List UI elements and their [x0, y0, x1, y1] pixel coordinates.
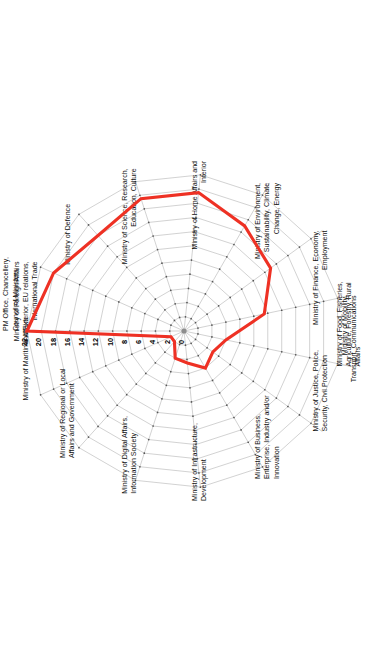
grid-vertex-dot	[148, 222, 150, 224]
axis-label-line: Ministry of Regional or Local	[59, 368, 67, 458]
axis-label-line: Ministry of Foreign Affairs	[13, 261, 21, 341]
grid-vertex-dot	[267, 348, 269, 350]
grid-vertex-dot	[219, 392, 221, 394]
grid-vertex-dot	[98, 330, 100, 332]
grid-vertex-dot	[88, 224, 90, 226]
axis-label-13: Ministry of Regional or LocalAffairs and…	[59, 368, 76, 458]
grid-vertex-dot	[166, 276, 168, 278]
grid-vertex-dot	[88, 436, 90, 438]
grid-vertex-dot	[287, 255, 289, 257]
grid-vertex-dot	[116, 404, 118, 406]
grid-vertex-dot	[264, 389, 266, 391]
grid-vertex-dot	[309, 357, 311, 359]
axis-label-line: Education, Culture	[130, 168, 138, 226]
grid-vertex-dot	[188, 373, 190, 375]
grid-vertex-dot	[226, 404, 228, 406]
grid-vertex-dot	[92, 371, 94, 373]
grid-vertex-dot	[197, 305, 199, 307]
grid-vertex-dot	[157, 249, 159, 251]
grid-vertex-dot	[189, 273, 191, 275]
grid-vertex-dot	[323, 300, 325, 302]
radar-chart-svg: 0246810121416182022PM Office, Chanceller…	[0, 0, 365, 670]
grid-vertex-dot	[174, 320, 176, 322]
axis-label-line: Ministry of Digital Affairs,	[121, 416, 129, 494]
grid-vertex-dot	[40, 266, 42, 268]
grid-vertex-dot	[92, 290, 94, 292]
grid-vertex-dot	[170, 324, 172, 326]
axis-label-line: Ministry of Justice, Police,	[312, 350, 320, 432]
grid-vertex-dot	[166, 384, 168, 386]
grid-vertex-dot	[170, 289, 172, 291]
axis-label-line: Ministry of Food, Fisheries,	[336, 281, 344, 366]
grid-vertex-dot	[157, 412, 159, 414]
grid-vertex-dot	[211, 336, 213, 338]
grid-vertex-dot	[118, 301, 120, 303]
radial-tick-label: 10	[106, 338, 115, 346]
grid-vertex-dot	[239, 318, 241, 320]
grid-vertex-dot	[229, 297, 231, 299]
grid-vertex-dot	[186, 302, 188, 304]
grid-vertex-dot	[190, 318, 192, 320]
grid-vertex-dot	[195, 339, 197, 341]
axis-label-line: PM Office, Chancellery,	[2, 257, 10, 331]
grid-vertex-dot	[97, 426, 99, 428]
grid-vertex-dot	[252, 380, 254, 382]
axis-label-10: Ministry of Business,Enterprise, Industr…	[254, 395, 280, 479]
radial-tick-label: 14	[77, 337, 86, 346]
grid-vertex-dot	[118, 359, 120, 361]
grid-vertex-dot	[155, 298, 157, 300]
grid-vertex-dot	[107, 415, 109, 417]
axis-label-line: Security, Civil Protection	[321, 355, 329, 431]
chart-center-hub	[181, 328, 186, 333]
grid-vertex-dot	[225, 321, 227, 323]
axis-label-line: Ministry of Infrastructure,	[191, 423, 199, 501]
grid-vertex-dot	[161, 398, 163, 400]
axis-label-6: Ministry of Finance, Economy,Employment	[312, 230, 329, 325]
grid-vertex-dot	[247, 219, 249, 221]
radial-tick-label: 8	[120, 340, 129, 344]
grid-vertex-dot	[53, 388, 55, 390]
grid-vertex-dot	[107, 245, 109, 247]
grid-vertex-dot	[143, 452, 145, 454]
axis-label-line: Ministry of Home Affairs and	[191, 161, 199, 250]
axis-label-line: Affairs	[354, 346, 362, 366]
axis-label-line: Change, Energy	[273, 182, 281, 234]
radial-tick-label: 6	[134, 340, 143, 344]
grid-vertex-dot	[295, 354, 297, 356]
grid-vertex-dot	[112, 330, 114, 332]
grid-vertex-dot	[253, 345, 255, 347]
grid-vertex-dot	[79, 377, 81, 379]
grid-vertex-dot	[276, 263, 278, 265]
grid-vertex-dot	[139, 194, 141, 196]
radial-tick-label: 16	[63, 338, 72, 346]
axis-label-line: Affairs and Government	[68, 383, 76, 458]
grid-vertex-dot	[126, 394, 128, 396]
grid-spoke	[41, 267, 184, 331]
grid-vertex-dot	[205, 293, 207, 295]
grid-vertex-dot	[295, 306, 297, 308]
grid-vertex-dot	[174, 303, 176, 305]
grid-vertex-dot	[195, 322, 197, 324]
grid-vertex-dot	[239, 342, 241, 344]
grid-vertex-dot	[219, 268, 221, 270]
grid-vertex-dot	[281, 351, 283, 353]
axis-label-4: Ministry of Home Affairs andInterior	[191, 160, 208, 249]
axis-label-line: Agriculture, Forestry, Rural	[345, 282, 353, 367]
grid-vertex-dot	[135, 383, 137, 385]
grid-vertex-dot	[164, 351, 166, 353]
grid-vertex-dot	[186, 359, 188, 361]
grid-vertex-dot	[299, 246, 301, 248]
axis-label-2: Ministry of Defence	[64, 204, 72, 265]
grid-vertex-dot	[240, 429, 242, 431]
grid-vertex-dot	[191, 259, 193, 261]
grid-vertex-dot	[212, 380, 214, 382]
grid-vertex-dot	[190, 343, 192, 345]
grid-vertex-dot	[161, 262, 163, 264]
grid-vertex-dot	[169, 330, 171, 332]
grid-vertex-dot	[240, 231, 242, 233]
grid-spoke	[184, 239, 311, 331]
grid-vertex-dot	[116, 256, 118, 258]
grid-vertex-dot	[152, 235, 154, 237]
grid-vertex-dot	[126, 330, 128, 332]
grid-spoke	[79, 214, 184, 331]
